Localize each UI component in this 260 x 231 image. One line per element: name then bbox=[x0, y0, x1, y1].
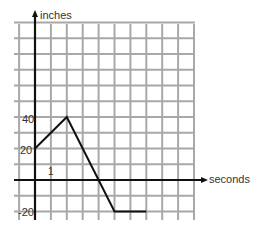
line-chart: inches seconds 1 40 20 -20 bbox=[0, 0, 260, 231]
tick-label-y-40: 40 bbox=[22, 113, 34, 125]
x-axis-label: seconds bbox=[209, 173, 250, 185]
y-axis-label: inches bbox=[40, 9, 72, 21]
y-axis-arrow-icon bbox=[32, 10, 38, 17]
x-axis-arrow-icon bbox=[201, 177, 208, 183]
tick-label-x-1: 1 bbox=[48, 166, 54, 177]
tick-label-y-neg20: -20 bbox=[18, 206, 34, 218]
tick-label-y-20: 20 bbox=[20, 144, 32, 156]
